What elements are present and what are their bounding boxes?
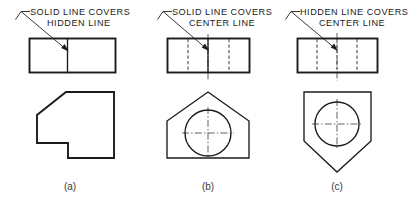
panel-b-note-line-2: CENTER LINE: [189, 18, 255, 28]
panel-c-note-line-1: HIDDEN LINE COVERS: [300, 7, 408, 17]
panel-b-caption: (b): [202, 181, 214, 192]
panel-a-note-line-1: SOLID LINE COVERS: [30, 7, 130, 17]
panel-a: SOLID LINE COVERS HIDDEN LINE (a): [16, 7, 131, 192]
panel-a-top-view-outline: [30, 39, 116, 73]
panel-a-caption: (a): [64, 181, 76, 192]
panel-a-note-line-2: HIDDEN LINE: [47, 18, 111, 28]
panel-b-note-line-1: SOLID LINE COVERS: [172, 7, 272, 17]
panel-a-front-view-outline: [37, 92, 114, 158]
technical-drawing-figure: SOLID LINE COVERS HIDDEN LINE (a) SOLID …: [0, 0, 418, 202]
panel-c: HIDDEN LINE COVERS CENTER LINE (c): [286, 7, 409, 192]
panel-b: SOLID LINE COVERS CENTER LINE (b): [158, 7, 273, 192]
panel-c-note-line-2: CENTER LINE: [319, 18, 385, 28]
panel-c-caption: (c): [331, 181, 343, 192]
panel-c-front-view-outline: [304, 92, 371, 172]
figure-canvas: SOLID LINE COVERS HIDDEN LINE (a) SOLID …: [0, 0, 418, 202]
